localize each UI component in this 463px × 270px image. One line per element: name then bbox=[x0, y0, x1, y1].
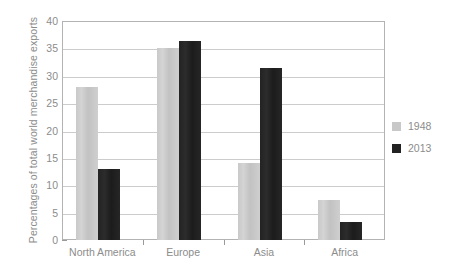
x-tick-label-asia: Asia bbox=[224, 245, 304, 259]
bar-2013-europe bbox=[179, 41, 201, 240]
bars-layer bbox=[62, 21, 385, 240]
bar-2013-africa bbox=[340, 222, 362, 240]
legend-item[interactable]: 1948 bbox=[392, 118, 458, 135]
y-tick-label: 40 bbox=[12, 16, 58, 26]
y-tick-label: 30 bbox=[12, 71, 58, 81]
legend-swatch-1948 bbox=[392, 122, 401, 131]
category-separator bbox=[304, 240, 305, 245]
y-tick-mark bbox=[62, 240, 67, 241]
legend-item[interactable]: 2013 bbox=[392, 140, 458, 157]
x-axis-tick-labels: North AmericaEuropeAsiaAfrica bbox=[62, 245, 385, 261]
legend-swatch-2013 bbox=[392, 144, 401, 153]
bar-2013-asia bbox=[260, 68, 282, 240]
y-tick-label: 10 bbox=[12, 180, 58, 190]
legend: 19482013 bbox=[392, 118, 458, 162]
bar-1948-north-america bbox=[76, 87, 98, 240]
y-tick-label: 20 bbox=[12, 126, 58, 136]
bar-group bbox=[224, 21, 305, 240]
bar-chart: Percentages of total world merchandise e… bbox=[0, 0, 463, 270]
category-separator bbox=[143, 240, 144, 245]
bar-group bbox=[143, 21, 224, 240]
bar-1948-europe bbox=[157, 48, 179, 240]
legend-label-2013: 2013 bbox=[408, 143, 431, 154]
y-tick-label: 5 bbox=[12, 208, 58, 218]
bar-group bbox=[304, 21, 385, 240]
x-tick-label-north-america: North America bbox=[62, 245, 142, 259]
legend-label-1948: 1948 bbox=[408, 121, 431, 132]
x-tick-label-europe: Europe bbox=[143, 245, 223, 259]
y-tick-label: 0 bbox=[12, 235, 58, 245]
x-tick-label-africa: Africa bbox=[305, 245, 385, 259]
bar-group bbox=[62, 21, 143, 240]
bar-2013-north-america bbox=[98, 169, 120, 240]
bar-1948-asia bbox=[238, 163, 260, 240]
y-tick-label: 15 bbox=[12, 153, 58, 163]
bar-1948-africa bbox=[318, 200, 340, 240]
y-axis-tick-labels: 4035302520151050 bbox=[6, 21, 58, 240]
y-tick-label: 35 bbox=[12, 43, 58, 53]
category-separator bbox=[224, 240, 225, 245]
y-tick-label: 25 bbox=[12, 98, 58, 108]
